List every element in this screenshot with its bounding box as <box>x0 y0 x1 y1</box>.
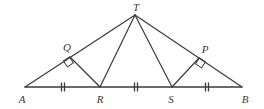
right-angle-marks <box>63 57 205 68</box>
vertex-label-T: T <box>133 2 139 13</box>
vertex-label-Q: Q <box>63 42 71 53</box>
vertex-label-B: B <box>242 94 249 105</box>
segment-perpendicular-SP <box>172 58 199 87</box>
geometry-figure: A B T R S Q P <box>0 0 264 109</box>
segment-cevian-TS <box>135 15 172 87</box>
vertex-label-P: P <box>202 44 209 55</box>
vertex-label-A: A <box>19 94 26 105</box>
segment-side-TB <box>135 15 242 87</box>
geometry-canvas <box>0 0 264 109</box>
segment-perpendicular-RQ <box>70 57 100 87</box>
vertex-label-S: S <box>168 94 174 105</box>
vertex-label-R: R <box>97 94 104 105</box>
segment-side-AT <box>25 15 135 87</box>
cevians <box>100 15 172 87</box>
triangle-outline <box>25 15 242 87</box>
